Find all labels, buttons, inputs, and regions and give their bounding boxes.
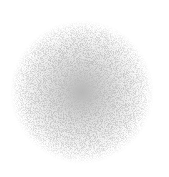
noise-sphere [0, 0, 169, 177]
noise-sphere-canvas [0, 0, 169, 177]
sphere-grain [10, 20, 154, 164]
